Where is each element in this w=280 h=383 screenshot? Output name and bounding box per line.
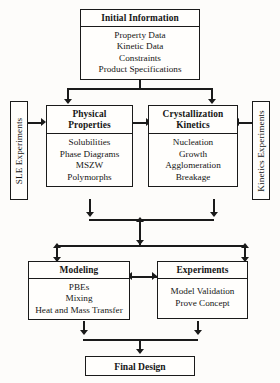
initial-information-body: Property Data Kinetic Data Constraints P… bbox=[81, 27, 199, 79]
list-item: Phase Diagrams bbox=[48, 149, 131, 161]
list-item: Kinetic Data bbox=[82, 41, 198, 53]
crystallization-kinetics-header-line2: Kinetics bbox=[151, 120, 235, 131]
list-item: MSZW bbox=[48, 160, 131, 172]
connector-final-bus bbox=[83, 339, 198, 341]
list-item: Solubilities bbox=[48, 137, 131, 149]
physical-properties-header: Physical Properties bbox=[47, 106, 132, 134]
list-item: Polymorphs bbox=[48, 172, 131, 184]
box-modeling[interactable]: Modeling PBEs Mixing Heat and Mass Trans… bbox=[28, 261, 130, 320]
arrowhead-experiments-side bbox=[152, 272, 157, 280]
list-item: Breakage bbox=[150, 172, 236, 184]
initial-information-header: Initial Information bbox=[81, 10, 199, 27]
modeling-header: Modeling bbox=[29, 262, 129, 279]
arrowhead-modeling-up bbox=[53, 243, 61, 248]
list-item: Mixing bbox=[30, 293, 128, 305]
box-physical-properties[interactable]: Physical Properties Solubilities Phase D… bbox=[46, 105, 133, 187]
crystallization-kinetics-body: Nucleation Growth Agglomeration Breakage bbox=[149, 134, 237, 186]
box-crystallization-kinetics[interactable]: Crystallization Kinetics Nucleation Grow… bbox=[148, 105, 238, 187]
list-item: Agglomeration bbox=[150, 160, 236, 172]
arrowhead-kinetics-down bbox=[210, 212, 218, 217]
box-final-design[interactable]: Final Design bbox=[85, 356, 195, 376]
flowchart-canvas: Initial Information Property Data Kineti… bbox=[0, 0, 280, 383]
arrowhead-modeling-out bbox=[80, 330, 88, 335]
list-item: Prove Concept bbox=[159, 298, 246, 310]
physical-properties-header-line2: Properties bbox=[49, 120, 130, 131]
kinetics-experiments-label: Kinetics Experiments bbox=[256, 110, 266, 191]
physical-properties-header-line1: Physical bbox=[49, 109, 130, 120]
list-item: PBEs bbox=[30, 282, 128, 294]
list-item: Nucleation bbox=[150, 137, 236, 149]
list-item: Product Specifications bbox=[82, 64, 198, 76]
list-item: Model Validation bbox=[159, 286, 246, 298]
arrowhead-to-physical-properties bbox=[64, 99, 72, 104]
list-item: Property Data bbox=[82, 30, 198, 42]
arrowhead-experiments-up bbox=[241, 243, 249, 248]
connector-kinexp-to-kinetics bbox=[238, 122, 252, 124]
arrowhead-experiments-out bbox=[194, 330, 202, 335]
box-kinetics-experiments[interactable]: Kinetics Experiments bbox=[252, 101, 270, 200]
experiments-body: Model Validation Prove Concept bbox=[158, 279, 247, 318]
experiments-header: Experiments bbox=[158, 262, 247, 279]
list-item: Heat and Mass Transfer bbox=[30, 305, 128, 317]
final-design-label: Final Design bbox=[114, 361, 165, 372]
box-initial-information[interactable]: Initial Information Property Data Kineti… bbox=[80, 9, 200, 80]
modeling-body: PBEs Mixing Heat and Mass Transfer bbox=[29, 279, 129, 319]
list-item: Growth bbox=[150, 149, 236, 161]
arrowhead-physical-down bbox=[86, 212, 94, 217]
connector-lower-bus-lower bbox=[56, 245, 245, 247]
physical-properties-body: Solubilities Phase Diagrams MSZW Polymor… bbox=[47, 134, 132, 186]
list-item: Constraints bbox=[82, 53, 198, 65]
arrowhead-to-crystallization-kinetics bbox=[208, 99, 216, 104]
box-experiments[interactable]: Experiments Model Validation Prove Conce… bbox=[157, 261, 248, 319]
arrowhead-center-down bbox=[136, 240, 144, 245]
crystallization-kinetics-header-line1: Crystallization bbox=[151, 109, 235, 120]
sle-experiments-label: SLE Experiments bbox=[14, 117, 24, 184]
connector-lower-bus-upper bbox=[89, 219, 214, 221]
crystallization-kinetics-header: Crystallization Kinetics bbox=[149, 106, 237, 134]
arrowhead-center-up bbox=[136, 217, 144, 222]
connector-split-bus bbox=[67, 88, 212, 90]
arrowhead-to-final-design bbox=[136, 349, 144, 354]
box-sle-experiments[interactable]: SLE Experiments bbox=[10, 101, 28, 200]
